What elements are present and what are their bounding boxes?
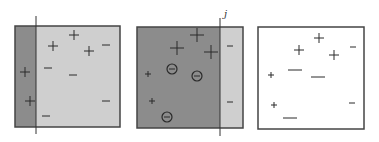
region-right (220, 27, 243, 128)
panel-2: j (137, 8, 243, 136)
region (258, 27, 364, 129)
region-left (137, 27, 220, 128)
region-right (36, 26, 120, 127)
boosting-diagram: j (0, 0, 379, 142)
boundary-label: j (222, 8, 227, 19)
panel-3 (258, 27, 364, 129)
panel-1 (15, 16, 120, 134)
